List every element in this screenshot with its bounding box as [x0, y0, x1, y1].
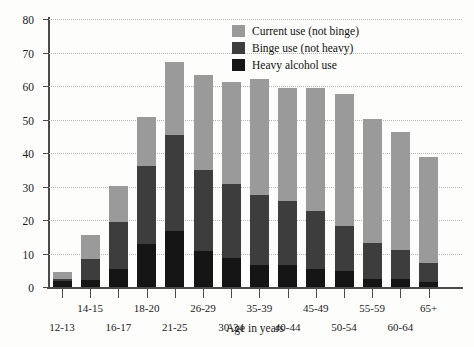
bar-segment	[165, 135, 184, 231]
y-tick-label: 50	[23, 115, 35, 127]
legend-label: Current use (not binge)	[252, 25, 359, 37]
legend-item: Binge use (not heavy)	[232, 40, 359, 56]
x-tick-label: 65+	[420, 302, 437, 314]
x-tick-label: 14-15	[77, 302, 103, 314]
y-tick-label: 20	[23, 215, 35, 227]
bar-segment	[165, 231, 184, 287]
x-tick-label: 40-44	[275, 321, 301, 333]
x-tick-mark	[316, 287, 317, 298]
chart-legend: Current use (not binge)Binge use (not he…	[232, 23, 359, 74]
y-tick-label: 80	[23, 14, 35, 26]
x-tick-mark	[288, 287, 289, 298]
bar-segment	[194, 75, 213, 170]
bar-segment	[81, 235, 100, 259]
bar-segment	[278, 88, 297, 201]
legend-swatch-icon	[232, 59, 245, 71]
bar-segment	[109, 186, 128, 222]
y-tick-mark: 40	[43, 153, 49, 154]
x-tick-label: 45-49	[303, 302, 329, 314]
bar-40-44	[278, 88, 297, 287]
y-tick-mark: 80	[43, 19, 49, 20]
x-tick-mark	[175, 287, 176, 298]
bar-segment	[335, 226, 354, 271]
y-tick-label: 70	[23, 48, 35, 60]
bar-segment	[194, 251, 213, 287]
bar-segment	[419, 157, 438, 263]
bar-50-54	[335, 94, 354, 287]
bar-segment	[137, 166, 156, 243]
y-tick-label: 10	[23, 249, 35, 261]
bar-segment	[363, 243, 382, 279]
bar-26-29	[194, 75, 213, 287]
x-tick-mark	[118, 287, 119, 298]
bar-segment	[165, 62, 184, 135]
bar-16-17	[109, 186, 128, 287]
bar-segment	[250, 265, 269, 287]
bar-segment	[250, 195, 269, 265]
y-tick-label: 60	[23, 81, 35, 93]
bar-segment	[137, 244, 156, 287]
legend-swatch-icon	[232, 25, 245, 37]
x-tick-label: 18-20	[134, 302, 160, 314]
x-tick-mark	[429, 287, 430, 298]
bar-21-25	[165, 62, 184, 287]
y-tick-mark: 50	[43, 120, 49, 121]
bar-segment	[222, 184, 241, 258]
y-tick-mark: 0	[43, 287, 49, 288]
x-tick-label: 12-13	[49, 321, 75, 333]
bar-segment	[250, 79, 269, 195]
x-tick-label: 35-39	[247, 302, 273, 314]
legend-item: Current use (not binge)	[232, 23, 359, 39]
x-tick-mark	[147, 287, 148, 298]
bar-segment	[109, 269, 128, 287]
bar-60-64	[391, 132, 410, 287]
y-tick-label: 0	[28, 282, 34, 294]
x-tick-label: 55-59	[359, 302, 385, 314]
x-tick-mark	[400, 287, 401, 298]
legend-label: Heavy alcohol use	[252, 59, 337, 71]
bar-45-49	[306, 88, 325, 287]
x-tick-mark	[259, 287, 260, 298]
bar-segment	[335, 271, 354, 287]
y-tick-mark: 30	[43, 187, 49, 188]
legend-item: Heavy alcohol use	[232, 57, 359, 73]
bar-segment	[306, 211, 325, 269]
x-tick-label: 21-25	[162, 321, 188, 333]
bar-segment	[419, 263, 438, 282]
x-tick-mark	[344, 287, 345, 298]
y-tick-label: 30	[23, 182, 35, 194]
bar-segment	[222, 258, 241, 287]
bar-55-59	[363, 119, 382, 287]
x-tick-mark	[231, 287, 232, 298]
bar-segment	[335, 94, 354, 226]
stacked-bar-chart-figure: Percent using in past month Age in years…	[0, 0, 474, 347]
gridline	[49, 19, 462, 20]
bar-segment	[363, 119, 382, 243]
bar-segment	[391, 132, 410, 251]
bar-segment	[109, 222, 128, 269]
bar-segment	[53, 272, 72, 279]
bar-18-20	[137, 117, 156, 287]
bar-30-34	[222, 82, 241, 287]
bar-segment	[278, 265, 297, 287]
x-tick-mark	[62, 287, 63, 298]
x-tick-mark	[203, 287, 204, 298]
y-tick-mark: 70	[43, 53, 49, 54]
bar-segment	[222, 82, 241, 184]
bar-segment	[137, 117, 156, 167]
x-tick-mark	[90, 287, 91, 298]
bar-segment	[306, 88, 325, 211]
bar-segment	[81, 280, 100, 287]
bar-segment	[391, 250, 410, 279]
x-tick-label: 30-34	[218, 321, 244, 333]
bar-segment	[306, 269, 325, 287]
legend-label: Binge use (not heavy)	[252, 42, 353, 54]
x-tick-label: 50-54	[331, 321, 357, 333]
bar-segment	[81, 259, 100, 279]
bar-14-15	[81, 235, 100, 287]
bar-segment	[391, 279, 410, 287]
bar-65+	[419, 157, 438, 287]
x-tick-mark	[372, 287, 373, 298]
y-tick-mark: 60	[43, 86, 49, 87]
y-tick-label: 40	[23, 148, 35, 160]
